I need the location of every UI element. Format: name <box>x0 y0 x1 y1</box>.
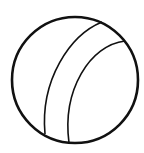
ball-outline <box>12 17 138 143</box>
ball-icon <box>0 0 144 153</box>
ball-illustration <box>0 0 144 153</box>
